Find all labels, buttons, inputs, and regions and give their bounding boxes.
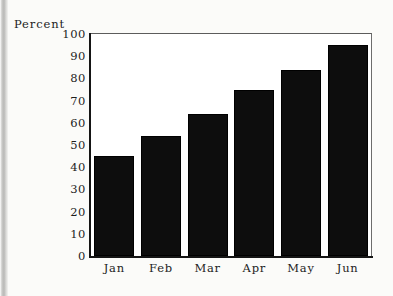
y-axis-tick-30: 30 (2, 182, 86, 196)
y-axis-tick-50: 50 (2, 138, 86, 152)
bar-fill-feb (141, 136, 181, 256)
x-axis-tick-jun: Jun (320, 261, 376, 275)
bar-fill-jan (94, 156, 134, 256)
bar-series (91, 34, 371, 256)
bar-fill-jun (328, 45, 368, 256)
y-axis-tick-0: 0 (2, 249, 86, 263)
bar-fill-may (281, 70, 321, 256)
y-axis-tick-10: 10 (2, 227, 86, 241)
y-axis-tick-100: 100 (2, 27, 86, 41)
y-axis-tick-70: 70 (2, 94, 86, 108)
y-axis-tick-60: 60 (2, 116, 86, 130)
x-axis-tick-labels: JanFebMarAprMayJun (91, 261, 371, 283)
chart-page: Percent 0102030405060708090100 JanFebMar… (0, 0, 393, 296)
y-axis-tick-labels: 0102030405060708090100 (0, 0, 86, 296)
bar-fill-mar (188, 114, 228, 256)
y-axis-tick-40: 40 (2, 160, 86, 174)
bar-fill-apr (234, 90, 274, 257)
y-axis-tick-80: 80 (2, 71, 86, 85)
x-axis-line (89, 256, 373, 258)
y-axis-tick-90: 90 (2, 49, 86, 63)
y-axis-tick-20: 20 (2, 205, 86, 219)
